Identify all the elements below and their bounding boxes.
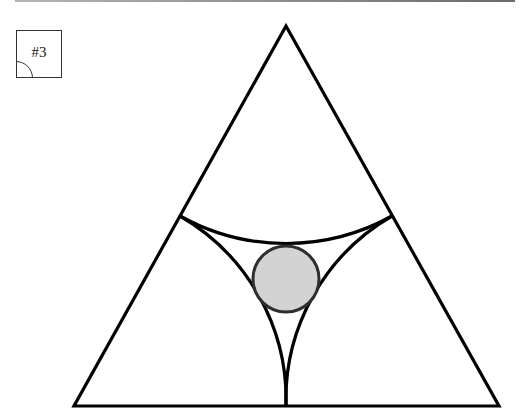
inscribed-circle — [253, 246, 319, 312]
geometry-figure — [0, 0, 521, 420]
outer-triangle — [74, 26, 499, 406]
